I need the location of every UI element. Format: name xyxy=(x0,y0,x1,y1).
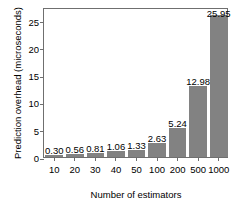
y-tick-label: 20 xyxy=(28,44,39,55)
x-tick-mark xyxy=(95,157,96,161)
bar[interactable] xyxy=(189,86,207,157)
bar[interactable] xyxy=(210,15,228,157)
y-tick-mark xyxy=(40,104,44,105)
bar[interactable] xyxy=(169,128,187,157)
x-tick-mark xyxy=(218,157,219,161)
x-tick-mark xyxy=(177,157,178,161)
y-tick-mark xyxy=(40,77,44,78)
bar-chart: Prediction overhead (microseconds) 05101… xyxy=(0,0,236,209)
x-tick-mark xyxy=(115,157,116,161)
y-tick-mark xyxy=(40,131,44,132)
plot-area: 0510152025 10203040501002005001000 0.300… xyxy=(43,8,228,158)
x-tick-mark xyxy=(54,157,55,161)
y-tick-mark xyxy=(40,49,44,50)
bar-value-label: 25.95 xyxy=(199,8,236,19)
x-tick-label: 1000 xyxy=(199,164,236,175)
bar[interactable] xyxy=(148,143,166,157)
y-tick-mark xyxy=(40,22,44,23)
bar[interactable] xyxy=(128,150,146,157)
y-tick-label: 25 xyxy=(28,17,39,28)
y-tick-label: 15 xyxy=(28,71,39,82)
y-tick-label: 5 xyxy=(34,126,39,137)
y-tick-mark xyxy=(40,159,44,160)
x-tick-mark xyxy=(74,157,75,161)
x-tick-mark xyxy=(136,157,137,161)
x-tick-mark xyxy=(198,157,199,161)
y-axis-title: Prediction overhead (microseconds) xyxy=(13,3,23,163)
y-tick-label: 10 xyxy=(28,98,39,109)
x-tick-mark xyxy=(157,157,158,161)
x-axis-title: Number of estimators xyxy=(43,189,229,200)
